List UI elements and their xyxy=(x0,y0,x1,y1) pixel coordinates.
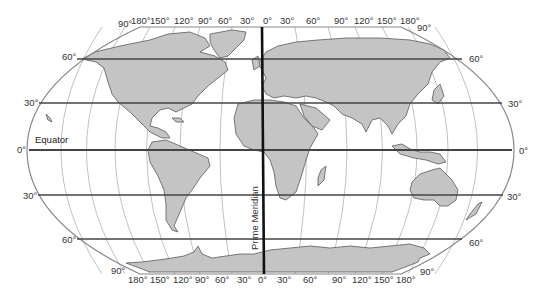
bottom-lon-label: 150° xyxy=(150,274,170,285)
lat-label-0-left: 0° xyxy=(17,144,26,155)
southeast-asia-islands xyxy=(392,144,446,164)
lat-label-30s-left: 30° xyxy=(23,190,38,201)
top-lon-label: 150° xyxy=(150,15,170,26)
top-lon-label: 30° xyxy=(280,15,295,26)
bottom-lon-label: 30° xyxy=(237,274,252,285)
south-america xyxy=(148,140,210,232)
left-latitude-labels: 60° 30° 0° 30° 60° xyxy=(17,51,77,245)
prime-meridian-label: Prime Meridian xyxy=(249,186,260,250)
top-lon-label: 120° xyxy=(354,15,374,26)
lat-label-30n-left: 30° xyxy=(24,97,39,108)
bottom-lon-label: 60° xyxy=(303,274,318,285)
top-lon-label: 30° xyxy=(240,15,255,26)
pole-label-bottom-left: 90° xyxy=(111,265,126,276)
top-lon-label: 180° xyxy=(400,15,420,26)
top-lon-label: 120° xyxy=(174,15,194,26)
bottom-lon-label: 120° xyxy=(352,274,372,285)
top-lon-label: 150° xyxy=(377,15,397,26)
lat-label-30n-right: 30° xyxy=(508,98,523,109)
lat-label-30s-right: 30° xyxy=(507,191,522,202)
top-lon-label: 90° xyxy=(198,15,213,26)
japan xyxy=(432,84,444,104)
top-lon-label: 60° xyxy=(306,15,321,26)
top-lon-label: 60° xyxy=(218,15,233,26)
equator-label: Equator xyxy=(35,134,68,145)
pole-label-bottom-right: 90° xyxy=(420,266,435,277)
top-longitude-labels: 180° 150° 120° 90° 60° 30° 0° 30° 60° 90… xyxy=(131,15,420,26)
top-lon-label: 90° xyxy=(334,15,349,26)
world-map: Prime Meridian Equator 90° 90° 90° 90° 1… xyxy=(0,0,541,294)
bottom-lon-label: 30° xyxy=(277,274,292,285)
bottom-lon-label: 90° xyxy=(332,274,347,285)
lat-label-60n-left: 60° xyxy=(62,51,77,62)
bottom-lon-label: 60° xyxy=(215,274,230,285)
north-america xyxy=(82,32,228,138)
bottom-lon-label: 0° xyxy=(258,274,267,285)
new-zealand xyxy=(466,202,482,220)
australia xyxy=(410,168,458,206)
bottom-longitude-labels: 180° 150° 120° 90° 60° 30° 0° 30° 60° 90… xyxy=(128,274,416,285)
lat-label-60s-left: 60° xyxy=(62,234,77,245)
bottom-lon-label: 90° xyxy=(195,274,210,285)
bottom-lon-label: 180° xyxy=(128,274,148,285)
top-lon-label: 180° xyxy=(131,15,151,26)
bottom-lon-label: 120° xyxy=(173,274,193,285)
greenland xyxy=(210,30,246,58)
bottom-lon-label: 150° xyxy=(374,274,394,285)
hawaii xyxy=(46,114,52,122)
antarctica xyxy=(126,244,430,272)
lat-label-60s-right: 60° xyxy=(469,237,484,248)
british-isles xyxy=(252,56,260,70)
lat-label-0-right: 0° xyxy=(519,145,528,156)
top-lon-label: 0° xyxy=(263,15,272,26)
madagascar xyxy=(318,166,326,186)
lat-label-60n-right: 60° xyxy=(469,53,484,64)
caribbean-islands xyxy=(172,118,184,122)
bottom-lon-label: 180° xyxy=(396,274,416,285)
